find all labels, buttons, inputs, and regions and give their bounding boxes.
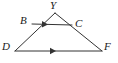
vertex-label-F: F [104, 41, 111, 52]
segment-BC [32, 24, 72, 25]
parallel-arrow-icon-df [50, 48, 56, 54]
geometry-figure: Y B C D F [0, 0, 118, 63]
vertex-label-Y: Y [50, 0, 56, 11]
vertex-label-B: B [20, 15, 27, 26]
vertex-label-D: D [2, 41, 10, 52]
vertex-label-C: C [75, 18, 82, 29]
figure-canvas [0, 0, 118, 63]
